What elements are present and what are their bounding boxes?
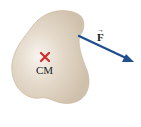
force-label: F <box>97 31 104 43</box>
diagram-canvas <box>0 0 141 127</box>
center-of-mass-label: CM <box>36 64 53 76</box>
rigid-body-shape <box>12 11 89 104</box>
force-arrow-icon <box>79 36 134 62</box>
